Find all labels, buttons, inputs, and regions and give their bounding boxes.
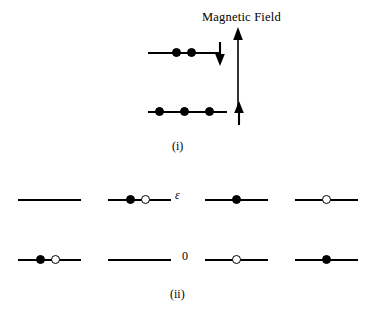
- microstate-2-upper-particle-filled: [126, 195, 135, 204]
- microstate-1-lower-line: [18, 259, 81, 261]
- figure-canvas: Magnetic Field (i) ε 0: [0, 0, 369, 309]
- microstate-4-upper-particle-open: [322, 195, 331, 204]
- part-ii-group: ε 0 (ii): [0, 0, 369, 309]
- microstate-3-lower-particle-open: [232, 255, 241, 264]
- microstate-2-upper-line: [108, 199, 171, 201]
- microstate-3-upper-particle-filled: [232, 195, 241, 204]
- part-ii-caption: (ii): [170, 288, 185, 300]
- microstate-2-upper-particle-open: [141, 195, 150, 204]
- microstate-2-lower-line: [108, 259, 171, 261]
- microstate-4-lower-particle-filled: [322, 255, 331, 264]
- zero-level-label: 0: [182, 250, 188, 262]
- microstate-1-lower-particle-open: [51, 255, 60, 264]
- microstate-1-upper-line: [18, 199, 81, 201]
- microstate-1-lower-particle-filled: [36, 255, 45, 264]
- epsilon-level-label: ε: [175, 189, 180, 201]
